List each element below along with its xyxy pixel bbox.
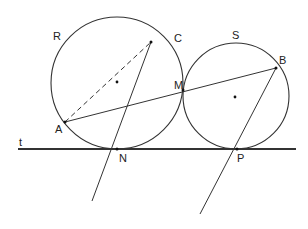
circle-s [183, 43, 289, 149]
center-s-dot [234, 96, 237, 99]
label-point-n: N [119, 152, 127, 164]
label-point-b: B [279, 54, 286, 66]
label-line-t: t [19, 136, 22, 148]
line-cn-extended [92, 42, 151, 201]
segment-ac-dashed [65, 42, 151, 122]
label-point-p: P [237, 152, 244, 164]
point-b-dot [275, 67, 278, 70]
label-point-c: C [174, 32, 182, 44]
center-r-dot [116, 81, 119, 84]
segment-ab [65, 68, 276, 122]
point-a-dot [64, 121, 67, 124]
point-p-dot [236, 148, 239, 151]
label-point-m: M [174, 79, 183, 91]
label-circle-r: R [53, 30, 61, 42]
geometry-diagram: R S t A B C M N P [0, 0, 308, 229]
label-circle-s: S [232, 29, 239, 41]
point-n-dot [116, 148, 119, 151]
point-c-dot [150, 41, 153, 44]
label-point-a: A [55, 123, 63, 135]
